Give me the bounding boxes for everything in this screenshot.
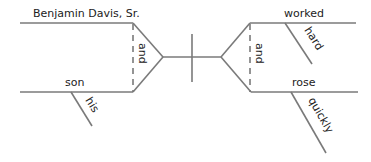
- subject-conjunction-label: and: [136, 43, 149, 64]
- predicate-1-label: worked: [284, 7, 324, 20]
- predicate-2-label: rose: [292, 76, 316, 89]
- predicate-conjunction-label: and: [253, 43, 266, 64]
- predicate-fork-lower: [221, 57, 251, 92]
- predicate-2-modifier-label: quickly: [305, 95, 336, 136]
- subject-2-label: son: [65, 76, 84, 89]
- predicate-fork-upper: [221, 23, 250, 57]
- predicate-1-modifier-label: hard: [301, 25, 326, 53]
- subject-2-modifier-label: his: [82, 95, 102, 115]
- subject-1-label: Benjamin Davis, Sr.: [33, 7, 140, 20]
- sentence-diagram: Benjamin Davis, Sr. son his and worked h…: [0, 0, 371, 162]
